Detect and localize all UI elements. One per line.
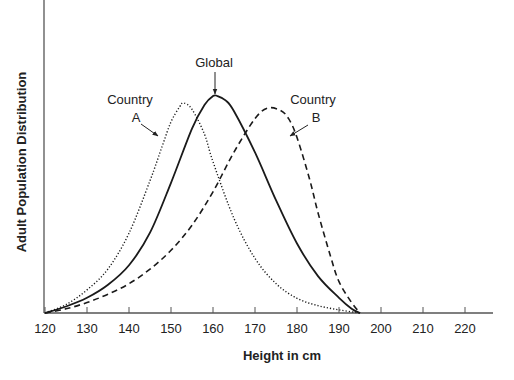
x-tick-label: 130 [76,321,98,336]
x-tick-label: 180 [286,321,308,336]
x-tick-label: 220 [454,321,476,336]
x-tick-label: 150 [160,321,182,336]
x-tick-label: 170 [244,321,266,336]
annotation-country-a-line1: Country [107,92,153,107]
x-tick-label: 210 [412,321,434,336]
annotation-country-b-line2: B [312,110,321,125]
x-axis-ticks [45,307,465,313]
x-axis-title: Height in cm [243,348,321,363]
arrow-country-a [141,124,158,136]
x-tick-label: 160 [202,321,224,336]
x-axis-tick-labels: 120130140150160170180190200210220 [34,321,476,336]
country-a-curve [45,103,360,313]
x-tick-label: 140 [118,321,140,336]
country-b-curve [45,108,360,313]
x-tick-label: 120 [34,321,56,336]
x-tick-label: 200 [370,321,392,336]
annotation-global: Global [195,55,233,70]
height-distribution-chart: 120130140150160170180190200210220 Countr… [0,0,514,380]
annotation-country-b-line1: Country [290,92,336,107]
global-curve [45,95,360,313]
y-axis-title: Adult Population Distribution [14,72,29,253]
x-tick-label: 190 [328,321,350,336]
annotation-country-a-line2: A [132,110,141,125]
